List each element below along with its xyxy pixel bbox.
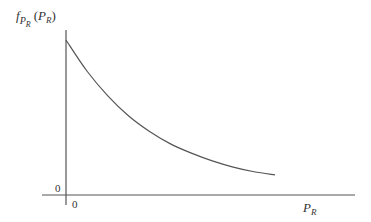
x-axis-label: PR [302,200,317,217]
x-origin-label: 0 [72,198,78,210]
pdf-chart: fPR(PR) PR 0 0 [0,0,371,222]
y-origin-label: 0 [55,182,61,194]
pdf-curve [66,40,275,175]
y-axis-label: fPR(PR) [16,8,56,29]
